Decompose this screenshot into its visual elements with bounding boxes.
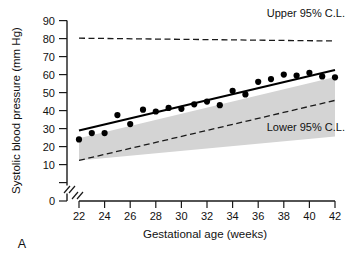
scatter-plot: 90 80 70 60 50 40 30 20 10 0 Systolic bl…: [0, 0, 355, 264]
x-axis-title: Gestational age (weeks): [143, 228, 267, 240]
panel-letter: A: [18, 237, 27, 251]
x-tick-label: 22: [73, 210, 85, 222]
lower-confidence-limit-label: Lower 95% C.L.: [267, 121, 345, 133]
data-point: [332, 74, 338, 80]
x-tick-label: 38: [278, 210, 290, 222]
upper-confidence-limit-label: Upper 95% C.L.: [267, 7, 345, 19]
data-point: [89, 130, 95, 136]
data-point: [114, 112, 120, 118]
y-tick-label: 60: [43, 69, 55, 81]
y-tick-label: 20: [43, 141, 55, 153]
y-axis-title: Systolic blood pressure (mm Hg): [10, 27, 22, 194]
data-point: [102, 130, 108, 136]
data-point: [294, 72, 300, 78]
upper-confidence-limit-line: [79, 38, 335, 41]
y-tick-label: 30: [43, 123, 55, 135]
x-axis: 22 24 26 28 30 32 34 36 38 40 42 Gestati…: [73, 201, 341, 240]
data-point: [153, 108, 159, 114]
x-tick-label: 28: [150, 210, 162, 222]
y-tick-label: 80: [43, 33, 55, 45]
y-tick-label: 40: [43, 105, 55, 117]
data-point: [217, 102, 223, 108]
data-point: [204, 99, 210, 105]
y-tick-label: 90: [43, 15, 55, 27]
confidence-band-fill: [79, 77, 335, 160]
data-point: [230, 88, 236, 94]
figure-panel-a: 90 80 70 60 50 40 30 20 10 0 Systolic bl…: [0, 0, 355, 264]
data-point: [140, 107, 146, 113]
data-point: [127, 121, 133, 127]
x-tick-label: 32: [201, 210, 213, 222]
data-point: [255, 79, 261, 85]
data-point: [242, 91, 248, 97]
data-point: [191, 101, 197, 107]
data-point: [76, 136, 82, 142]
data-point: [306, 70, 312, 76]
x-tick-label: 34: [226, 210, 238, 222]
data-point: [166, 105, 172, 111]
x-tick-label: 30: [175, 210, 187, 222]
x-tick-label: 40: [303, 210, 315, 222]
y-tick-label: 70: [43, 51, 55, 63]
data-point: [281, 72, 287, 78]
data-point: [268, 76, 274, 82]
y-tick-label: 0: [49, 195, 55, 207]
y-axis: 90 80 70 60 50 40 30 20 10 0 Systolic bl…: [10, 15, 83, 207]
x-tick-label: 42: [329, 210, 341, 222]
y-tick-label: 10: [43, 159, 55, 171]
y-tick-label: 50: [43, 87, 55, 99]
x-tick-label: 36: [252, 210, 264, 222]
x-tick-label: 24: [98, 210, 110, 222]
data-point: [178, 106, 184, 112]
x-tick-label: 26: [124, 210, 136, 222]
data-point: [319, 73, 325, 79]
